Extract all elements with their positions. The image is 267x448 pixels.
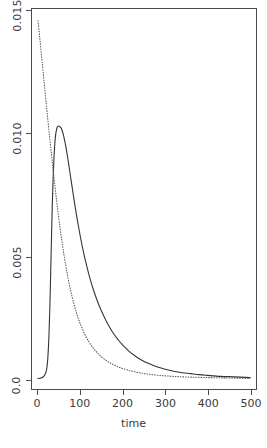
x-tick-label: 500 (241, 398, 262, 410)
x-tick-label: 200 (112, 398, 133, 410)
x-tick-label: 300 (155, 398, 176, 410)
y-tick-label: 0.015 (11, 0, 22, 32)
series-solid-curve (38, 126, 250, 379)
curve-canvas (32, 9, 256, 389)
chart-root: 0.00.0050.0100.015 time 0100200300400500 (0, 0, 267, 448)
x-tick-mark (208, 390, 209, 395)
x-tick-mark (80, 390, 81, 395)
x-tick-label: 100 (69, 398, 90, 410)
x-tick-label: 400 (198, 398, 219, 410)
y-tick-label: 0.010 (11, 123, 22, 156)
y-tick-label: 0.005 (11, 246, 22, 279)
y-axis: 0.00.0050.0100.015 (0, 0, 31, 448)
x-tick-label: 0 (34, 398, 41, 410)
series-dotted-curve (38, 21, 250, 379)
series-group (38, 21, 250, 379)
x-tick-mark (165, 390, 166, 395)
plot-area (31, 8, 257, 390)
x-axis: time 0100200300400500 (0, 390, 267, 448)
x-tick-mark (123, 390, 124, 395)
x-tick-mark (37, 390, 38, 395)
x-tick-mark (251, 390, 252, 395)
x-axis-title: time (0, 418, 267, 430)
